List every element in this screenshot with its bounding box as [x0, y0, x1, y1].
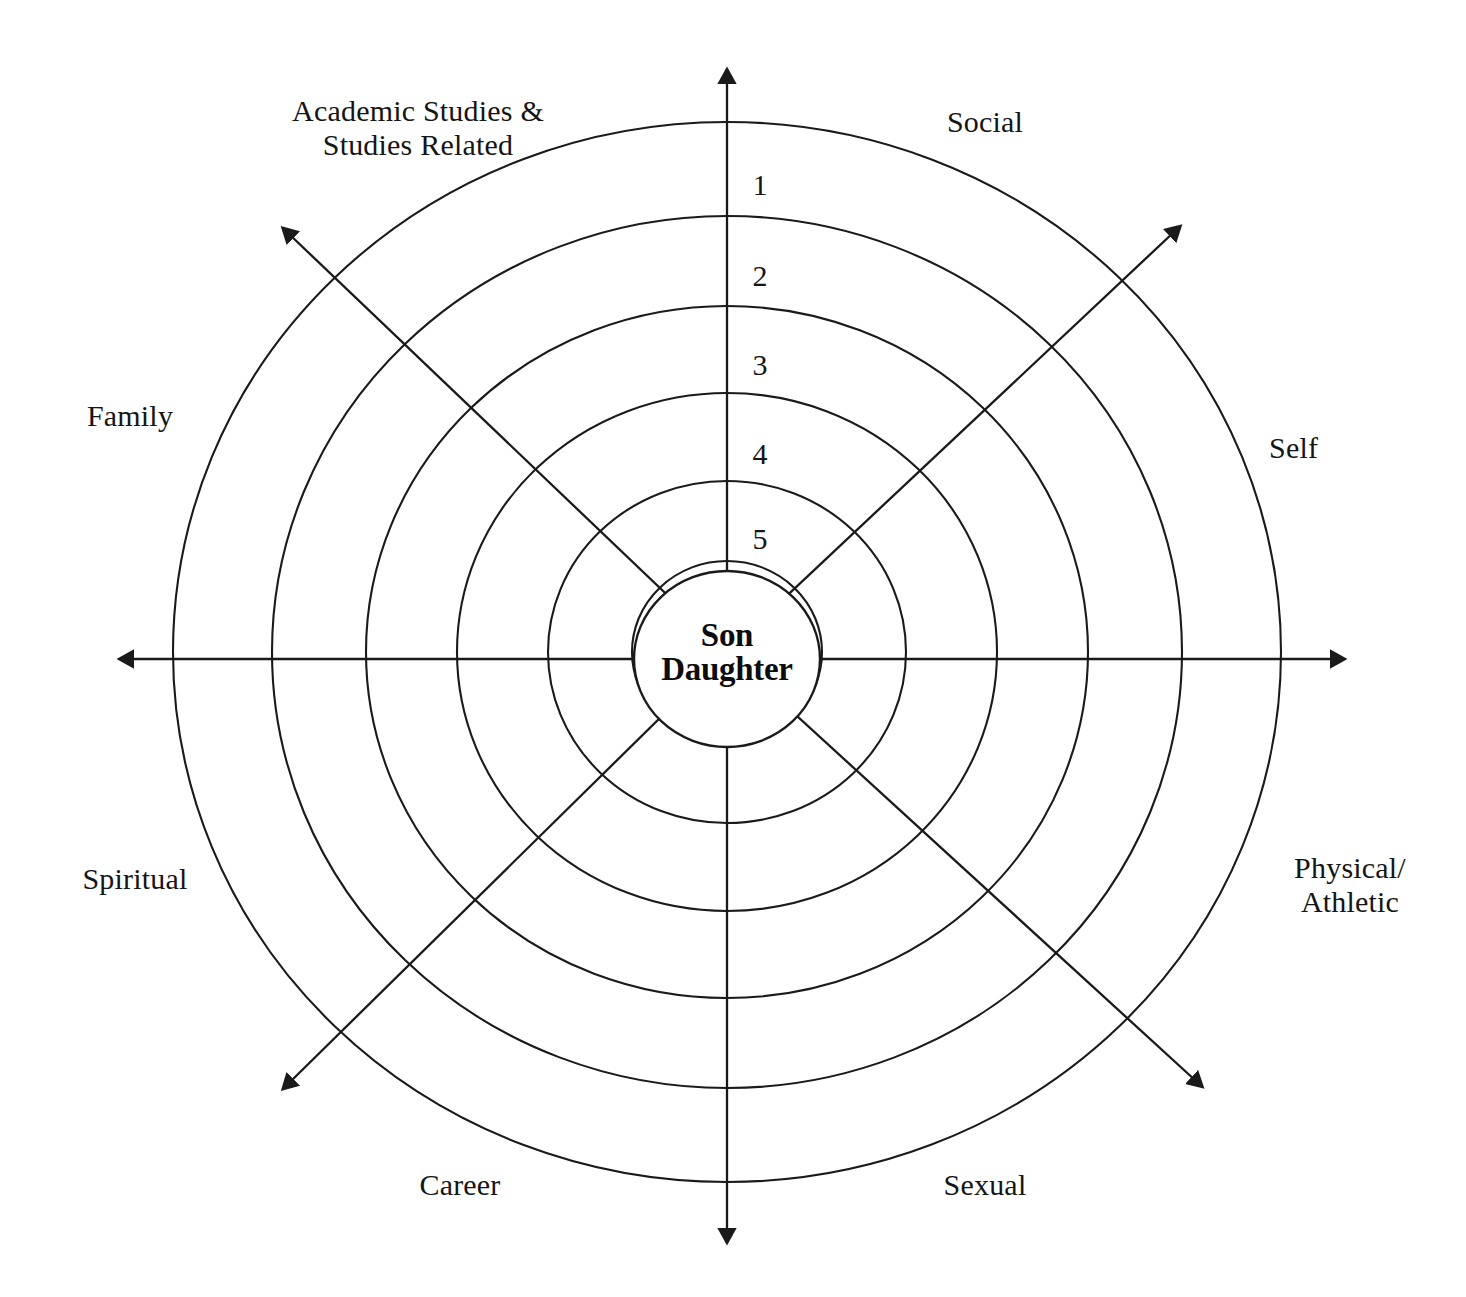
axis-label-spiritual: Spiritual — [20, 862, 250, 896]
scale-number-3: 3 — [740, 348, 780, 382]
scale-number-2: 2 — [740, 259, 780, 293]
axis-label-self: Self — [1269, 431, 1449, 465]
scale-number-5: 5 — [740, 522, 780, 556]
axis-label-family: Family — [20, 399, 240, 433]
center-label: Son Daughter — [577, 618, 877, 686]
scale-number-4: 4 — [740, 437, 780, 471]
axis-label-social: Social — [860, 105, 1110, 139]
axis-label-career: Career — [340, 1168, 580, 1202]
diagram-canvas: Son Daughter 1 2 3 4 5 Social Self Physi… — [0, 0, 1466, 1297]
axis-label-physical-athletic: Physical/ Athletic — [1250, 851, 1450, 919]
scale-number-1: 1 — [740, 168, 780, 202]
axis-diagonal-up-right — [727, 232, 1174, 652]
axis-diagonal-up-left — [289, 234, 727, 652]
axis-label-academic-studies: Academic Studies & Studies Related — [228, 94, 608, 162]
axis-label-sexual: Sexual — [875, 1168, 1095, 1202]
